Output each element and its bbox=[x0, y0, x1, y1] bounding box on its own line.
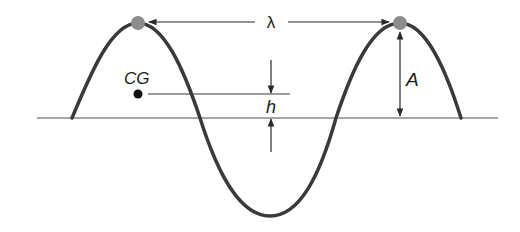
amplitude-label: A bbox=[405, 69, 419, 90]
cg-label: CG bbox=[124, 69, 150, 88]
right-peak-marker bbox=[393, 16, 407, 30]
left-peak-marker bbox=[131, 16, 145, 30]
height-label: h bbox=[266, 97, 276, 117]
wave-diagram: λ A CG h bbox=[0, 0, 520, 232]
wave-curve bbox=[72, 23, 461, 216]
wavelength-label: λ bbox=[267, 13, 276, 32]
cg-dot bbox=[134, 90, 143, 99]
